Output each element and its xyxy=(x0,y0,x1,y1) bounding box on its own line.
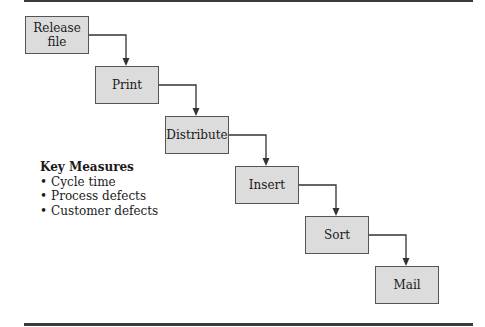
key-measure-item: Customer defects xyxy=(40,204,158,219)
step-insert: Insert xyxy=(235,166,299,204)
step-sort: Sort xyxy=(305,216,369,254)
connector-arrow xyxy=(369,235,406,260)
key-measure-item: Cycle time xyxy=(40,175,158,190)
arrowhead-icon xyxy=(123,58,130,66)
key-measures: Key Measures Cycle time Process defects … xyxy=(40,160,158,218)
step-label: Distribute xyxy=(166,128,227,142)
step-label: Insert xyxy=(249,178,285,192)
step-release-file: Release file xyxy=(25,16,89,54)
step-mail: Mail xyxy=(375,266,439,304)
step-label: Release file xyxy=(33,21,81,49)
key-measures-title: Key Measures xyxy=(40,160,158,175)
arrowhead-icon xyxy=(403,258,410,266)
step-distribute: Distribute xyxy=(165,116,229,154)
step-label: Print xyxy=(112,78,142,92)
bottom-rule xyxy=(24,323,473,326)
arrowhead-icon xyxy=(263,158,270,166)
step-label: Mail xyxy=(393,278,420,292)
arrowhead-icon xyxy=(193,108,200,116)
key-measure-item: Process defects xyxy=(40,189,158,204)
connector-arrow xyxy=(89,35,126,60)
step-print: Print xyxy=(95,66,159,104)
step-label: Sort xyxy=(324,228,350,242)
connector-arrow xyxy=(159,85,196,110)
connector-arrow xyxy=(299,185,336,210)
arrowhead-icon xyxy=(333,208,340,216)
connector-arrow xyxy=(229,135,266,160)
